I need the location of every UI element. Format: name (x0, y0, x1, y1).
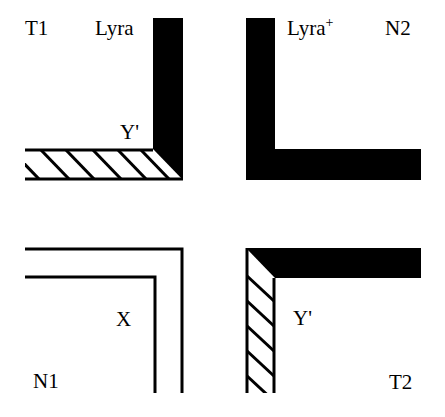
top-right-junction (246, 18, 421, 180)
top-left-solid-strand (153, 18, 183, 180)
holliday-junction-diagram: T1 Lyra Y' Lyra+ N2 X N1 Y' T2 (0, 0, 445, 417)
bottom-right-solid-strand (246, 248, 421, 278)
label-lyra-plus-superscript: + (325, 15, 333, 30)
label-y-prime-bottom: Y' (293, 308, 312, 329)
top-right-solid-strand (246, 18, 421, 180)
label-lyra-plus-base: Lyra (287, 16, 325, 40)
top-left-junction (10, 18, 183, 180)
top-left-hatched-strand (10, 149, 183, 180)
label-lyra-plus: Lyra+ (287, 18, 333, 39)
label-n2: N2 (385, 18, 411, 39)
label-x: X (116, 309, 131, 330)
label-lyra: Lyra (95, 18, 133, 39)
label-t1: T1 (25, 18, 48, 39)
label-n1: N1 (33, 371, 59, 392)
label-y-prime-top: Y' (120, 122, 139, 143)
label-t2: T2 (389, 372, 412, 393)
